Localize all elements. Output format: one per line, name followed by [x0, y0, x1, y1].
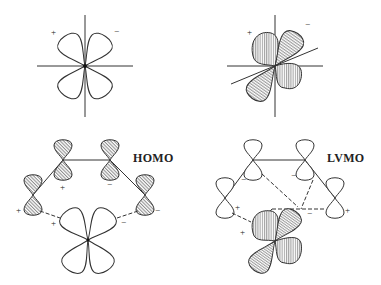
lobe-lower-right-hatched	[275, 63, 301, 88]
sign-minus-homo-3: −	[121, 218, 126, 227]
panel-d-orbital-hatched	[227, 15, 323, 117]
sign-plus-homo-1: +	[60, 183, 65, 192]
sign-plus-p2: +	[247, 28, 252, 37]
interaction-dash-left	[40, 211, 60, 218]
orbital-diagram	[0, 0, 381, 285]
metal-d-orbital	[56, 204, 120, 277]
sign-minus-homo-2: −	[155, 206, 160, 215]
sign-plus-homo-3: +	[51, 219, 56, 228]
sign-plus-lvmo-3: +	[345, 206, 350, 215]
lvmo-label: LVMO	[327, 151, 364, 166]
metal-d-orbital-hatched	[245, 205, 304, 277]
sign-minus-homo-1: −	[107, 180, 112, 189]
p-orbital-left	[216, 178, 234, 219]
sign-minus-p2: −	[305, 20, 310, 29]
p-orbital-left	[24, 175, 42, 216]
sign-minus-p1: −	[114, 27, 119, 36]
sign-minus-lvmo-3: −	[307, 209, 312, 218]
homo-label: HOMO	[133, 151, 174, 166]
lobe-upper-left-hatched	[252, 32, 278, 66]
p-orbital-right	[136, 175, 154, 216]
sign-plus-homo-2: +	[16, 206, 21, 215]
sign-minus-lvmo-2: −	[291, 171, 296, 180]
sign-plus-lvmo-2: +	[240, 228, 245, 237]
sign-plus-lvmo-1: +	[235, 203, 240, 212]
nucleus-dot	[83, 64, 87, 68]
p-orbital-right	[326, 178, 344, 219]
sign-minus-lvmo-1: −	[241, 175, 246, 184]
sign-plus-p1: +	[51, 28, 56, 37]
